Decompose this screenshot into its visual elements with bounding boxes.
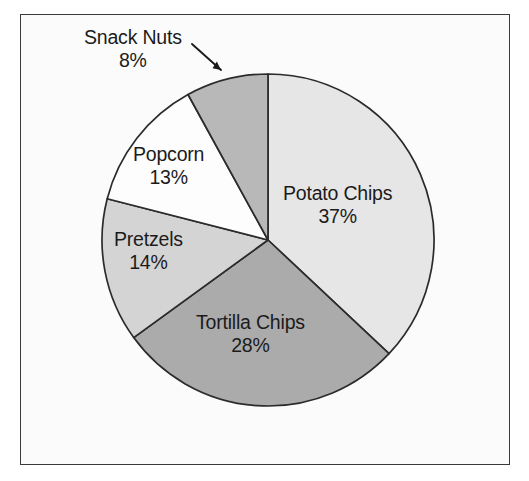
- pie-label-pretzels-value: 14%: [114, 251, 183, 274]
- pie-label-pretzels: Pretzels 14%: [114, 228, 183, 274]
- pie-label-tortilla-chips: Tortilla Chips 28%: [196, 311, 305, 357]
- pie-label-popcorn-value: 13%: [133, 166, 204, 189]
- pie-label-tortilla-chips-name: Tortilla Chips: [196, 311, 305, 333]
- pie-label-potato-chips-value: 37%: [283, 205, 392, 228]
- pie-label-popcorn-name: Popcorn: [133, 143, 204, 165]
- pie-label-potato-chips: Potato Chips 37%: [283, 182, 392, 228]
- pie-label-tortilla-chips-value: 28%: [196, 334, 305, 357]
- page-root: Potato Chips 37% Tortilla Chips 28% Pret…: [0, 0, 529, 481]
- pie-label-pretzels-name: Pretzels: [114, 228, 183, 250]
- pie-label-popcorn: Popcorn 13%: [133, 143, 204, 189]
- pie-label-snack-nuts-name: Snack Nuts: [84, 26, 182, 48]
- pie-label-snack-nuts: Snack Nuts 8%: [84, 26, 182, 72]
- pie-label-snack-nuts-value: 8%: [84, 49, 182, 72]
- pie-chart: Potato Chips 37% Tortilla Chips 28% Pret…: [0, 0, 529, 481]
- pie-chart-svg: [0, 0, 529, 481]
- snack-nuts-leader-arrow: [192, 44, 221, 70]
- pie-label-potato-chips-name: Potato Chips: [283, 182, 392, 204]
